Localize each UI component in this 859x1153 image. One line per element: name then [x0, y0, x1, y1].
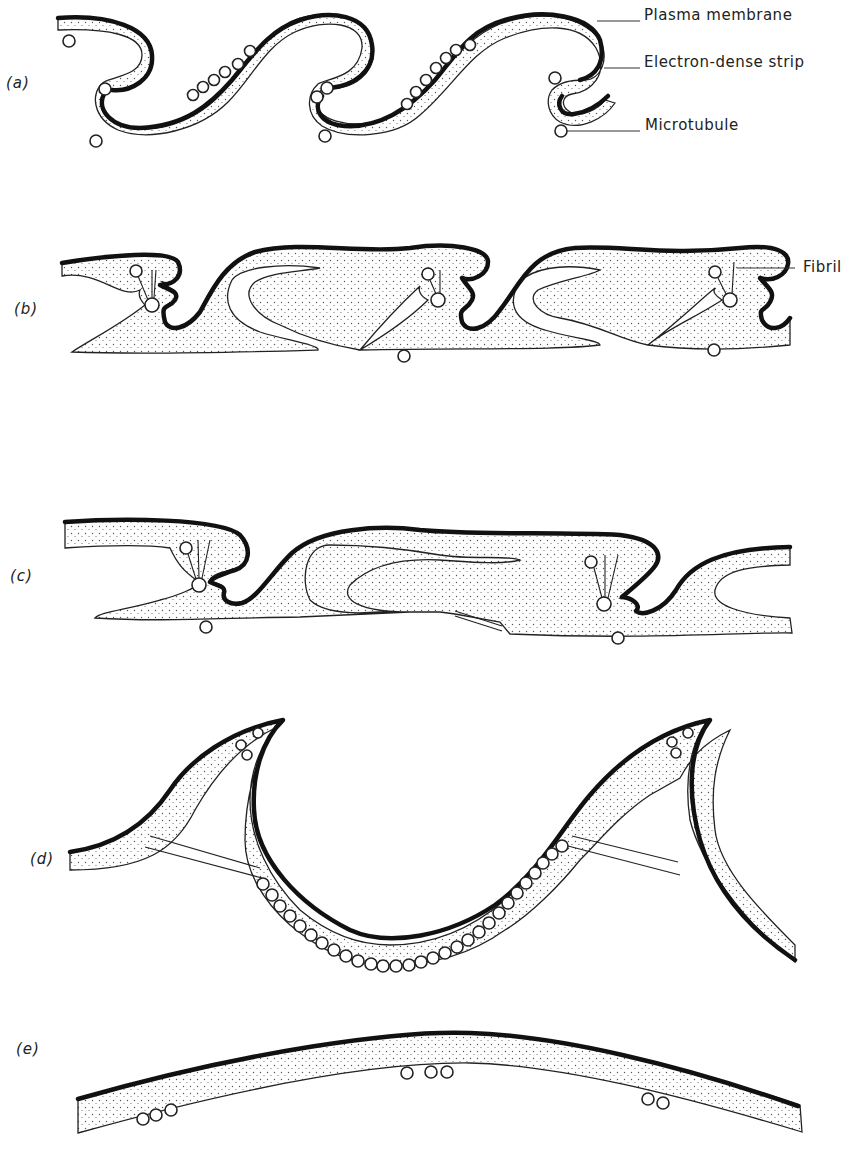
panel-label-a: (a)	[6, 74, 30, 92]
panel-label-c: (c)	[10, 567, 33, 585]
callout-microtubule: Microtubule	[645, 116, 739, 134]
panel-b-drawing	[62, 246, 795, 362]
panel-c-drawing	[65, 520, 792, 644]
panel-label-b: (b)	[14, 300, 38, 318]
callout-electron-dense-strip: Electron-dense strip	[644, 53, 805, 71]
callout-plasma-membrane: Plasma membrane	[644, 6, 792, 24]
diagram-canvas	[0, 0, 859, 1153]
panel-label-e: (e)	[16, 1040, 40, 1058]
callout-fibril: Fibril	[803, 258, 842, 276]
panel-label-d: (d)	[30, 850, 54, 868]
panel-d-drawing	[70, 720, 795, 972]
panel-e-drawing	[78, 1033, 802, 1133]
panel-a-drawing	[58, 14, 640, 147]
